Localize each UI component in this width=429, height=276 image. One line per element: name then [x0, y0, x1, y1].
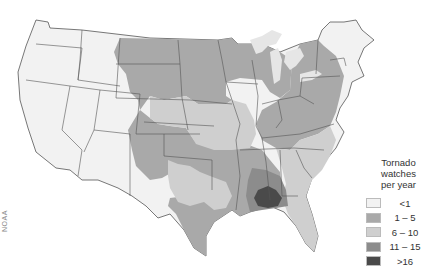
legend-swatch — [366, 242, 381, 252]
legend-swatch — [366, 256, 381, 266]
legend-item-lt1: <1 — [366, 196, 429, 211]
legend-item-1-5: 1 – 5 — [366, 211, 429, 226]
legend-item-6-10: 6 – 10 — [366, 225, 429, 240]
legend-label: 6 – 10 — [385, 227, 425, 238]
tornado-watch-map — [0, 0, 429, 276]
legend-swatch — [366, 213, 381, 223]
legend-label: 11 – 15 — [385, 241, 425, 252]
legend-title-line-3: per year — [368, 179, 429, 190]
source-credit: NOAA — [1, 210, 8, 232]
legend-title-line-2: watches — [368, 168, 429, 179]
legend-label: >16 — [385, 256, 425, 267]
legend-label: 1 – 5 — [385, 212, 425, 223]
legend-swatch — [366, 198, 381, 208]
legend-title: Tornado watches per year — [366, 157, 429, 190]
legend-label: <1 — [385, 198, 425, 209]
legend-swatch — [366, 227, 381, 237]
legend: Tornado watches per year <1 1 – 5 6 – 10… — [366, 157, 429, 269]
legend-item-gt16: >16 — [366, 254, 429, 269]
legend-title-line-1: Tornado — [368, 157, 429, 168]
legend-item-11-15: 11 – 15 — [366, 240, 429, 255]
